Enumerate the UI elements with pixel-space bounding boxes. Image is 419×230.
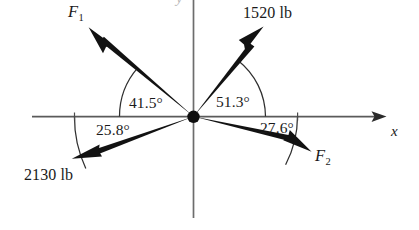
axes-group: [32, 0, 387, 218]
vectors-group: [72, 27, 312, 159]
x-axis-label: x: [391, 124, 398, 139]
vector-label-f1-base: F: [68, 2, 78, 21]
origin-point: [187, 111, 199, 123]
magnitude-label-1520: 1520 lb: [243, 5, 292, 21]
angle-label-27-6: 27.6°: [260, 120, 294, 136]
vector-force-2130: [72, 117, 194, 159]
vector-label-f2-subscript: 2: [325, 156, 330, 167]
force-diagram-figure: F1 1520 lb 41.5° 51.3° 25.8° 27.6° 2130 …: [0, 0, 419, 230]
diagram-canvas: [0, 0, 419, 230]
vector-label-f2-base: F: [315, 146, 325, 165]
angle-arc-25-8: [74, 117, 85, 169]
vector-label-f1: F1: [68, 4, 83, 21]
angle-label-41-5: 41.5°: [129, 95, 163, 111]
magnitude-label-2130: 2130 lb: [24, 167, 73, 183]
vector-f1-arrowhead: [89, 27, 112, 53]
vector-label-f1-subscript: 1: [78, 12, 83, 23]
y-axis-label: y: [176, 0, 183, 6]
vector-f2: [194, 117, 312, 152]
angle-label-25-8: 25.8°: [96, 122, 130, 138]
vector-force-2130-arrowhead: [72, 145, 102, 159]
angle-label-51-3: 51.3°: [216, 94, 250, 110]
angle-arcs-group: [74, 60, 297, 168]
vector-label-f2: F2: [315, 148, 330, 165]
